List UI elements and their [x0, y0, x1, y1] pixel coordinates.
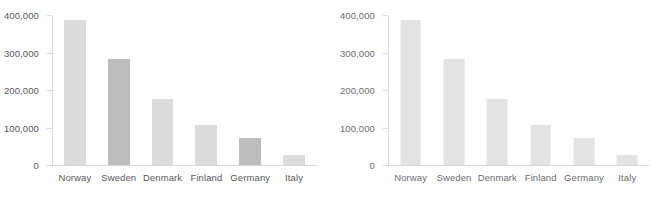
y-tick: 0 — [47, 165, 52, 166]
bar-slot: Sweden — [432, 16, 475, 165]
x-tick-label-norway: Norway — [59, 172, 92, 183]
bar-slot: Sweden — [97, 16, 141, 165]
x-tick-label-sweden: Sweden — [437, 172, 472, 183]
bar-finland[interactable] — [195, 125, 217, 165]
y-tick: 300,000 — [383, 53, 388, 54]
bar-norway[interactable] — [64, 20, 86, 165]
right-plot-area: 0100,000200,000300,000400,000 NorwaySwed… — [388, 16, 649, 166]
bar-slot: Finland — [519, 16, 562, 165]
x-tick-label-germany: Germany — [564, 172, 604, 183]
bar-slot: Finland — [185, 16, 229, 165]
y-tick: 100,000 — [383, 128, 388, 129]
bar-slot: Denmark — [141, 16, 185, 165]
bar-slot: Germany — [562, 16, 605, 165]
bar-denmark[interactable] — [487, 99, 508, 165]
y-tick: 300,000 — [47, 53, 52, 54]
y-tick: 0 — [383, 165, 388, 166]
right-bar-chart: 0100,000200,000300,000400,000 NorwaySwed… — [330, 0, 661, 198]
x-tick-label-finland: Finland — [525, 172, 557, 183]
bar-slot: Italy — [272, 16, 316, 165]
y-tick-label: 300,000 — [340, 47, 375, 58]
bar-germany[interactable] — [574, 138, 595, 165]
bar-sweden[interactable] — [444, 59, 465, 165]
bar-italy[interactable] — [617, 155, 638, 165]
x-tick-label-finland: Finland — [190, 172, 222, 183]
bar-slot: Denmark — [476, 16, 519, 165]
bar-norway[interactable] — [400, 20, 421, 165]
y-tick-label: 200,000 — [4, 85, 39, 96]
bar-denmark[interactable] — [152, 99, 174, 165]
x-tick-label-italy: Italy — [618, 172, 636, 183]
bar-slot: Germany — [228, 16, 272, 165]
left-plot-area: 0100,000200,000300,000400,000 NorwaySwed… — [52, 16, 316, 166]
bar-sweden[interactable] — [108, 59, 130, 165]
x-tick-label-denmark: Denmark — [143, 172, 182, 183]
left-bar-chart: 0100,000200,000300,000400,000 NorwaySwed… — [0, 0, 330, 198]
dual-bar-chart-figure: 0100,000200,000300,000400,000 NorwaySwed… — [0, 0, 661, 198]
x-tick-label-norway: Norway — [394, 172, 427, 183]
y-tick-label: 400,000 — [340, 10, 375, 21]
y-tick: 400,000 — [383, 15, 388, 16]
y-tick-label: 200,000 — [340, 85, 375, 96]
bar-slot: Italy — [606, 16, 649, 165]
left-x-axis-line — [52, 165, 316, 166]
y-tick-label: 400,000 — [4, 10, 39, 21]
right-x-axis-line — [388, 165, 649, 166]
y-tick-label: 100,000 — [340, 122, 375, 133]
bar-germany[interactable] — [239, 138, 261, 165]
bar-slot: Norway — [53, 16, 97, 165]
y-tick-label: 0 — [34, 160, 39, 171]
x-tick-label-denmark: Denmark — [478, 172, 517, 183]
y-tick-label: 0 — [370, 160, 375, 171]
left-bars-group: NorwaySwedenDenmarkFinlandGermanyItaly — [53, 16, 316, 165]
y-tick: 200,000 — [47, 90, 52, 91]
y-tick: 200,000 — [383, 90, 388, 91]
bar-finland[interactable] — [530, 125, 551, 165]
x-tick-label-sweden: Sweden — [101, 172, 136, 183]
x-tick-label-italy: Italy — [285, 172, 303, 183]
y-tick-label: 300,000 — [4, 47, 39, 58]
y-tick-label: 100,000 — [4, 122, 39, 133]
y-tick: 400,000 — [47, 15, 52, 16]
bar-italy[interactable] — [283, 155, 305, 165]
right-bars-group: NorwaySwedenDenmarkFinlandGermanyItaly — [389, 16, 649, 165]
y-tick: 100,000 — [47, 128, 52, 129]
x-tick-label-germany: Germany — [230, 172, 270, 183]
bar-slot: Norway — [389, 16, 432, 165]
